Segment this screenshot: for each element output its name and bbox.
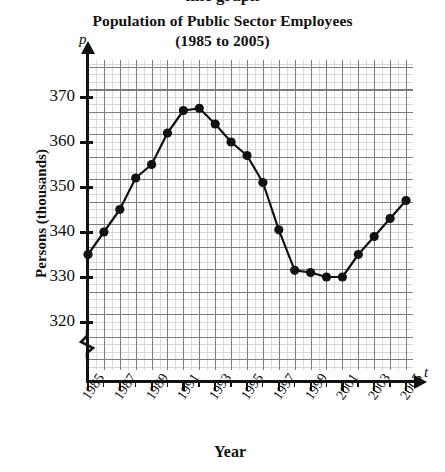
data-point-1986 — [99, 227, 108, 236]
data-point-2001 — [338, 272, 347, 281]
data-point-1985 — [83, 250, 92, 259]
plot-area: p t 320330340350360370 19851987198919911… — [0, 0, 445, 472]
data-point-1996 — [258, 178, 267, 187]
data-point-2000 — [322, 272, 331, 281]
data-point-1999 — [306, 268, 315, 277]
data-point-1989 — [147, 160, 156, 169]
data-point-1993 — [211, 119, 220, 128]
data-point-1990 — [163, 128, 172, 137]
data-point-2004 — [386, 214, 395, 223]
data-point-1992 — [195, 104, 204, 113]
data-point-1991 — [179, 106, 188, 115]
data-point-2005 — [401, 196, 410, 205]
x-axis-title: Year — [150, 443, 310, 461]
chart-page: line graph Population of Public Sector E… — [0, 0, 445, 472]
data-point-1987 — [115, 205, 124, 214]
data-point-2003 — [370, 232, 379, 241]
data-point-1994 — [227, 137, 236, 146]
y-axis-title: Persons (thousands) — [33, 119, 50, 309]
data-point-1998 — [290, 266, 299, 275]
data-series — [0, 0, 445, 472]
data-point-1997 — [274, 225, 283, 234]
data-point-1988 — [131, 173, 140, 182]
series-points — [83, 104, 410, 282]
data-point-1995 — [242, 151, 251, 160]
data-point-2002 — [354, 250, 363, 259]
